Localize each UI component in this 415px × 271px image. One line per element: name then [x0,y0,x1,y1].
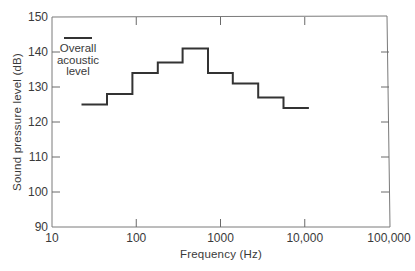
x-axis-title: Frequency (Hz) [180,248,262,260]
y-tick-label: 130 [28,80,48,94]
y-tick-label: 150 [28,10,48,24]
y-tick-label: 110 [29,150,48,164]
x-tick-label: 1000 [207,231,234,245]
y-axis-title: Sound pressure level (dB) [11,53,23,191]
x-tick-label: 100 [126,231,146,245]
sound-spectrum-chart: 90100110120130140150 10100100010,000100,… [0,0,415,271]
x-tick-label: 100,000 [367,231,411,245]
legend-label: level [66,65,90,77]
legend-label: acoustic [57,54,99,66]
y-tick-label: 140 [28,45,48,59]
legend: Overallacousticlevel [57,38,99,77]
y-tick-label: 120 [28,115,48,129]
plot-frame [52,16,390,227]
x-axis-ticks: 10100100010,000100,000 [45,17,411,245]
octave-band-step-path [82,49,309,109]
legend-label: Overall [60,42,96,54]
x-tick-label: 10,000 [286,231,323,245]
x-tick-label: 10 [45,231,59,245]
spectrum-step-line [82,49,309,109]
y-tick-label: 100 [28,185,48,199]
